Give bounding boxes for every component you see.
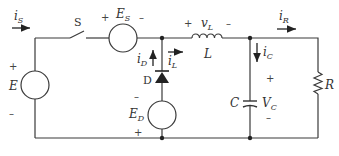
svg-text:–: – [139,12,144,23]
svg-text:D: D [143,74,152,87]
svg-text:ES: ES [115,7,131,23]
voltage-source-e: + E – [8,61,49,119]
svg-text:iS: iS [14,9,24,25]
svg-text:S: S [74,16,82,29]
svg-text:C: C [230,96,239,110]
svg-text:+: + [184,18,192,29]
svg-text:E: E [8,79,18,93]
current-is: iS [12,9,30,28]
wires [35,38,318,138]
svg-text:+: + [134,127,142,138]
svg-text:L: L [203,47,212,61]
current-id: iD [137,50,153,68]
svg-text:+: + [101,12,109,23]
svg-text:iD: iD [137,52,148,68]
svg-text:–: – [226,18,231,29]
current-ic: iC [257,43,273,62]
capacitor-c: C + VC – [230,73,277,123]
diode-d: D [143,71,169,87]
svg-text:R: R [324,78,334,92]
voltage-source-ed: – ED + [128,91,176,138]
switch-s: S [70,16,84,38]
svg-text:–: – [266,112,271,123]
resistor-r: R [314,72,334,94]
current-ir: iR [277,9,296,29]
svg-text:–: – [134,91,139,102]
svg-text:+: + [266,73,274,84]
svg-text:VC: VC [262,96,277,112]
svg-text:–: – [9,108,14,119]
svg-text:iL: iL [168,54,177,70]
svg-text:iR: iR [279,9,289,25]
svg-text:ED: ED [128,107,145,123]
current-il: iL [168,52,183,70]
svg-text:+: + [9,61,17,72]
svg-text:iC: iC [263,45,273,61]
svg-text:vL: vL [201,16,213,32]
circuit-diagram: + E – S + ES – D – ED + + vL – L C + [0,0,339,156]
voltage-source-es: + ES – [101,7,144,52]
